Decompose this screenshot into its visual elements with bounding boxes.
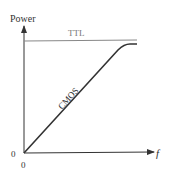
power-vs-frequency-diagram: Power f 0 0 TTL CMOS xyxy=(0,0,173,177)
x-axis xyxy=(24,152,154,153)
x-axis-label: f xyxy=(156,147,161,159)
ttl-label: TTL xyxy=(68,28,85,38)
ttl-curve xyxy=(24,40,137,41)
y-axis-label: Power xyxy=(10,13,36,24)
origin-x-label: 0 xyxy=(21,160,26,170)
origin-y-label: 0 xyxy=(11,149,16,159)
cmos-curve xyxy=(24,44,137,153)
cmos-label: CMOS xyxy=(56,86,81,112)
